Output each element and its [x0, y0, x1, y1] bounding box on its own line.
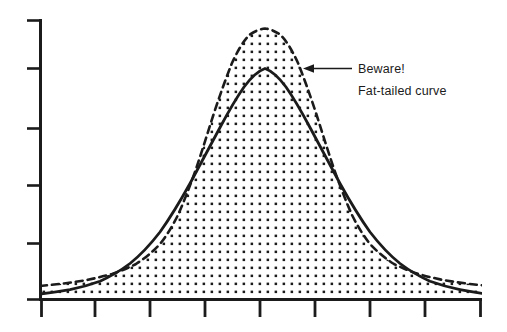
fat-tailed-curve-chart: Beware! Fat-tailed curve: [0, 0, 507, 332]
chart-canvas: Beware! Fat-tailed curve: [0, 0, 507, 332]
annotation-line-2: Fat-tailed curve: [358, 84, 447, 98]
annotation-line-1: Beware!: [358, 62, 405, 76]
